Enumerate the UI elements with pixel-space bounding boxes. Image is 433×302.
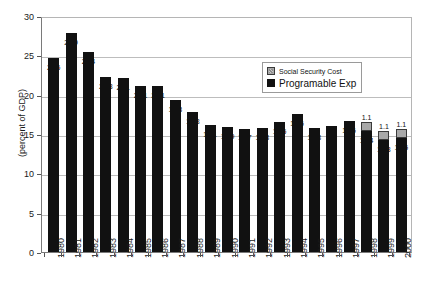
- x-tick-mark: [409, 253, 410, 257]
- bar: [274, 122, 285, 252]
- bar: [100, 77, 111, 252]
- x-tick-mark: [96, 253, 97, 257]
- x-tick-mark: [253, 253, 254, 257]
- y-tick-label: 15: [0, 131, 34, 140]
- bar-value-label: 17.6: [282, 120, 312, 128]
- bar-value-label: 21.1: [143, 92, 173, 100]
- legend-label-programable-exp: Programable Exp: [279, 78, 356, 89]
- bar-segment-programable-exp: [309, 128, 320, 252]
- bar-segment-programable-exp: [239, 129, 250, 253]
- x-tick-mark: [79, 253, 80, 257]
- y-tick-label: 20: [0, 92, 34, 101]
- y-tick-label: 30: [0, 13, 34, 22]
- x-tick-mark: [322, 253, 323, 257]
- bar-value-label: 17.8: [178, 118, 208, 126]
- x-tick-mark: [61, 253, 62, 257]
- bar-segment-programable-exp: [205, 125, 216, 252]
- bar-segment-social-security-cost: [378, 131, 389, 140]
- bar-value-label: 25.4: [73, 58, 103, 66]
- y-tick-label: 10: [0, 170, 34, 179]
- x-tick-mark: [166, 253, 167, 257]
- x-tick-mark: [392, 253, 393, 257]
- bar: [135, 86, 146, 252]
- bar: [118, 78, 129, 252]
- bar-segment-programable-exp: [274, 122, 285, 252]
- bar-segment-programable-exp: [222, 127, 233, 252]
- bar: [239, 129, 250, 253]
- bar-segment-programable-exp: [100, 77, 111, 252]
- x-tick-mark: [183, 253, 184, 257]
- bar-value-label: 27.9: [56, 39, 86, 47]
- bar-value-label: 14.5: [386, 144, 416, 152]
- x-tick-mark: [305, 253, 306, 257]
- y-tick-label: 0: [0, 249, 34, 258]
- bar-segment-social-security-cost: [396, 129, 407, 138]
- bar-segment-programable-exp: [326, 126, 337, 252]
- bar-value-label: 22.1: [108, 84, 138, 92]
- bar-value-label-social-security: 1.1: [352, 114, 382, 122]
- y-axis-title: (percent of GDP): [17, 63, 27, 183]
- bar-value-label: 24.6: [39, 64, 69, 72]
- y-tick-label: 25: [0, 52, 34, 61]
- legend-item-social-security-cost: Social Security Cost: [267, 65, 356, 77]
- bar: [326, 126, 337, 252]
- bar: [205, 125, 216, 252]
- x-tick-mark: [200, 253, 201, 257]
- bar-segment-programable-exp: [257, 128, 268, 252]
- x-tick-mark: [287, 253, 288, 257]
- bar: [222, 127, 233, 252]
- y-tick-label: 5: [0, 210, 34, 219]
- chart-legend: Social Security Cost Programable Exp: [262, 62, 362, 93]
- x-tick-mark: [131, 253, 132, 257]
- legend-swatch-black-icon: [267, 79, 275, 87]
- bar-chart: (percent of GDP) 051015202530 24.627.925…: [0, 0, 433, 302]
- x-tick-mark: [148, 253, 149, 257]
- legend-swatch-gray-icon: [267, 67, 275, 75]
- bar-segment-programable-exp: [135, 86, 146, 252]
- x-tick-mark: [235, 253, 236, 257]
- bar-value-label: 16.6: [334, 127, 364, 135]
- y-tick-mark: [37, 253, 41, 254]
- bar-value-label: 16.5: [265, 128, 295, 136]
- bar: [309, 128, 320, 252]
- bar-segment-programable-exp: [118, 78, 129, 252]
- gridline: [42, 97, 411, 98]
- x-tick-mark: [357, 253, 358, 257]
- bar-segment-programable-exp: [378, 140, 389, 252]
- bar: [257, 128, 268, 252]
- legend-label-social-security-cost: Social Security Cost: [279, 68, 342, 75]
- plot-area: 24.627.925.422.322.121.121.119.317.816.1…: [41, 17, 412, 253]
- x-tick-mark: [44, 253, 45, 257]
- bar-segment-programable-exp: [48, 58, 59, 252]
- x-tick-mark: [270, 253, 271, 257]
- bar: [48, 58, 59, 252]
- x-tick-mark: [218, 253, 219, 257]
- bar-value-label: 15.4: [352, 137, 382, 145]
- bar-value-label-social-security: 1.1: [386, 121, 416, 129]
- bar-value-label: 19.3: [160, 106, 190, 114]
- x-tick-mark: [374, 253, 375, 257]
- bar-segment-programable-exp: [396, 138, 407, 252]
- x-tick-mark: [339, 253, 340, 257]
- x-tick-mark: [114, 253, 115, 257]
- legend-item-programable-exp: Programable Exp: [267, 77, 356, 89]
